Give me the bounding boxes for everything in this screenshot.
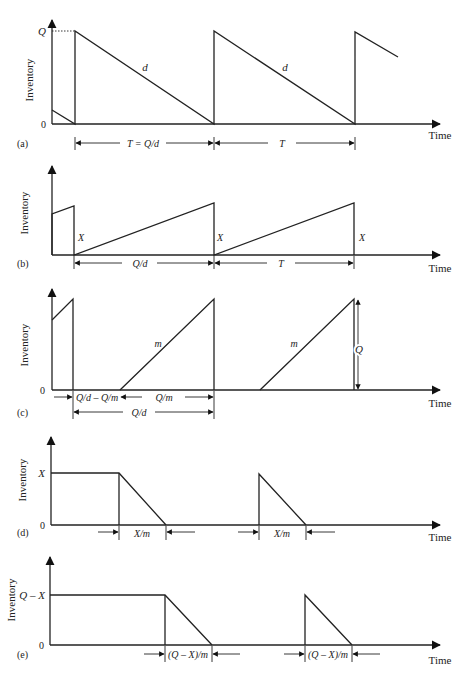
x-axis-label: Time [429, 531, 452, 543]
interval-label-xm: X/m [133, 528, 150, 539]
production-ramp [260, 299, 354, 390]
slope-label-d: d [282, 61, 288, 73]
panel-a: Inventory Q 0 d d Time (a) T = Q/d T [17, 20, 452, 150]
point-label-x: X [358, 232, 366, 243]
interval-label-xm: X/m [273, 528, 290, 539]
y-tick-zero: 0 [41, 119, 46, 130]
slope-label-m: m [290, 338, 297, 349]
point-label-x: X [77, 232, 85, 243]
x-axis-label: Time [429, 397, 452, 409]
initial-ramp [52, 299, 73, 390]
interval-label-qd: Q/d [133, 258, 149, 269]
panel-tag-d: (d) [17, 527, 29, 539]
y-tick-zero: 0 [40, 385, 45, 396]
panel-tag-b: (b) [17, 258, 29, 270]
y-tick-q-minus-x: Q – X [19, 589, 46, 601]
slope-label-m: m [154, 338, 161, 349]
inventory-figure: Inventory Q 0 d d Time (a) T = Q/d T Inv… [0, 0, 460, 677]
interval-label-qd: Q/d [132, 407, 148, 418]
interval-label-gap: Q/d – Q/m [76, 392, 118, 403]
x-axis-label: Time [429, 129, 452, 141]
interval-label-cycle: T = Q/d [127, 138, 160, 149]
interval-label-qxm: (Q – X)/m [168, 649, 208, 661]
y-tick-zero: 0 [39, 640, 44, 651]
production-ramp [120, 299, 214, 390]
y-tick-zero: 0 [40, 520, 45, 531]
interval-label-t: T [279, 138, 286, 149]
point-label-x: X [216, 232, 224, 243]
panel-b: Inventory X X X Time (b) Q/d T [17, 166, 452, 274]
x-axis-label: Time [429, 262, 452, 274]
interval-label-qxm: (Q – X)/m [308, 649, 348, 661]
panel-tag-a: (a) [17, 138, 28, 150]
interval-label-qm: Q/m [155, 392, 172, 403]
inventory-level [50, 595, 212, 645]
y-axis-label: Inventory [16, 458, 28, 501]
height-label-q: Q [355, 343, 363, 355]
y-tick-x: X [37, 467, 46, 479]
slope-label-d: d [142, 61, 148, 73]
panel-tag-e: (e) [17, 649, 28, 661]
y-tick-q: Q [38, 25, 46, 37]
y-axis-label: Inventory [18, 191, 30, 234]
x-axis-label: Time [429, 654, 452, 666]
backlog-sawtooth [52, 203, 354, 255]
panel-e: Inventory Q – X 0 Time (e) (Q – X)/m (Q … [5, 557, 452, 666]
panel-tag-c: (c) [17, 407, 28, 419]
inventory-level [51, 473, 166, 525]
inventory-drop [259, 474, 306, 525]
panel-c: Inventory 0 m m Q Q Time (c) Q/d – Q/m Q… [17, 289, 452, 419]
panel-d: Inventory X 0 Time (d) X/m X/m [16, 437, 452, 543]
y-axis-label: Inventory [5, 578, 17, 621]
interval-label-t: T [278, 258, 285, 269]
inventory-drop [305, 595, 352, 645]
y-axis-label: Inventory [23, 58, 35, 101]
inventory-sawtooth [52, 31, 398, 124]
y-axis-label: Inventory [18, 323, 30, 366]
